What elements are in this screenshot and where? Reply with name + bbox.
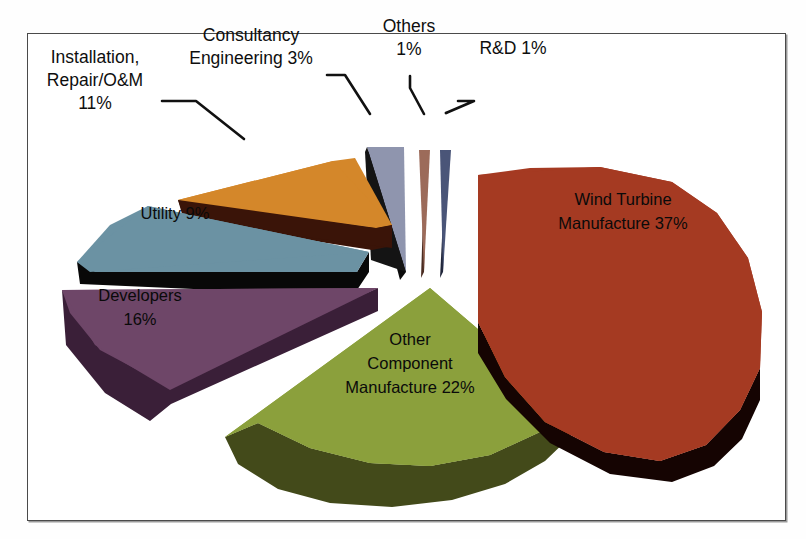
label-wind-turbine-line2: Manufacture 37% (558, 214, 688, 232)
slice-others-top (419, 150, 430, 272)
label-others-line2: 1% (396, 39, 421, 59)
leader-line-installation (162, 101, 244, 139)
label-consultancy: Consultancy Engineering 3% (189, 25, 313, 68)
label-installation-line1: Installation, (51, 47, 140, 67)
label-other-component-line1: Other (389, 330, 431, 348)
label-wind-turbine-line1: Wind Turbine (574, 190, 671, 208)
label-consultancy-line1: Consultancy (203, 25, 300, 45)
leader-line-consultancy (327, 75, 370, 114)
label-others: Others 1% (383, 16, 436, 59)
pie-chart: Installation, Repair/O&M 11% Consultancy… (0, 0, 806, 539)
label-other-component-line2: Component (367, 354, 453, 372)
label-others-line1: Others (383, 16, 436, 36)
label-other-component-line3: Manufacture 22% (345, 378, 475, 396)
slice-rd[interactable] (440, 150, 451, 278)
slice-others[interactable] (419, 150, 430, 278)
label-consultancy-line2: Engineering 3% (189, 48, 313, 68)
label-developers-line1: Developers (98, 286, 181, 304)
label-utility-line1: Utility 9% (141, 204, 210, 222)
label-utility: Utility 9% (141, 204, 210, 222)
label-installation-line3: 11% (78, 93, 112, 113)
label-installation: Installation, Repair/O&M 11% (47, 47, 143, 113)
label-rd-line1: R&D 1% (479, 38, 546, 58)
label-developers-line2: 16% (123, 310, 156, 328)
leader-line-others (410, 76, 424, 114)
label-installation-line2: Repair/O&M (47, 70, 143, 90)
figure-root: Installation, Repair/O&M 11% Consultancy… (0, 0, 806, 539)
leader-line-rd (446, 101, 474, 113)
label-rd: R&D 1% (479, 38, 546, 58)
